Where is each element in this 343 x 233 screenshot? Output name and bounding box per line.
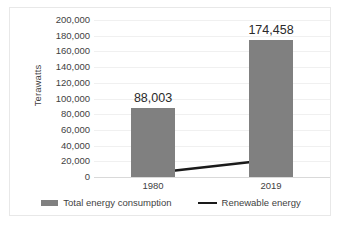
chart-legend: Total energy consumption Renewable energ… bbox=[10, 197, 332, 208]
y-axis-tick-label: 200,000 bbox=[40, 15, 90, 25]
y-axis-tick-label: 180,000 bbox=[40, 31, 90, 41]
y-axis-tick-label: 40,000 bbox=[40, 141, 90, 151]
x-axis-tick-labels: 19802019 bbox=[94, 180, 330, 194]
y-axis-tick-label: 80,000 bbox=[40, 109, 90, 119]
bar-swatch-icon bbox=[41, 200, 58, 206]
y-axis-tick-labels: 020,00040,00060,00080,000100,000120,0001… bbox=[40, 20, 90, 177]
legend-item-renewable-energy: Renewable energy bbox=[198, 197, 301, 208]
plot-area: 88,003174,458 bbox=[94, 20, 330, 177]
legend-item-total-energy-consumption: Total energy consumption bbox=[41, 197, 171, 208]
y-axis-tick-label: 60,000 bbox=[40, 125, 90, 135]
y-axis-tick-label: 160,000 bbox=[40, 47, 90, 57]
chart-container: Terawatts 020,00040,00060,00080,000100,0… bbox=[9, 7, 331, 216]
x-axis-tick-label: 1980 bbox=[142, 180, 163, 191]
y-axis-tick-label: 140,000 bbox=[40, 62, 90, 72]
bar-data-label: 88,003 bbox=[134, 91, 172, 105]
y-axis-tick-label: 120,000 bbox=[40, 78, 90, 88]
bar-2019 bbox=[249, 40, 293, 177]
y-axis-tick-label: 20,000 bbox=[40, 157, 90, 167]
y-axis-tick-label: 0 bbox=[40, 172, 90, 182]
y-axis-tick-label: 100,000 bbox=[40, 94, 90, 104]
renewable-energy-line-series bbox=[94, 20, 330, 177]
x-axis-tick-label: 2019 bbox=[260, 180, 281, 191]
legend-label: Total energy consumption bbox=[63, 197, 171, 208]
line-swatch-icon bbox=[198, 202, 217, 204]
bar-1980 bbox=[131, 108, 175, 177]
axis-baseline bbox=[94, 177, 330, 178]
legend-label: Renewable energy bbox=[222, 197, 301, 208]
bar-data-label: 174,458 bbox=[248, 23, 293, 37]
